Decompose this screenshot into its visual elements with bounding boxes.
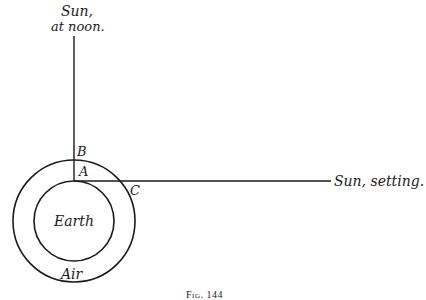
point-c-label: C: [130, 183, 140, 198]
earth-label: Earth: [53, 213, 94, 229]
air-label: Air: [59, 266, 84, 282]
sun-noon-label-line1: Sun,: [61, 3, 93, 19]
diagram-figure: Sun, at noon. Sun, setting. B A C Earth …: [0, 0, 426, 300]
sun-noon-label-line2: at noon.: [51, 19, 105, 34]
figure-caption: Fig. 144: [186, 289, 223, 300]
point-a-label: A: [78, 164, 88, 179]
point-b-label: B: [76, 144, 87, 159]
sun-setting-label: Sun, setting.: [334, 173, 424, 189]
